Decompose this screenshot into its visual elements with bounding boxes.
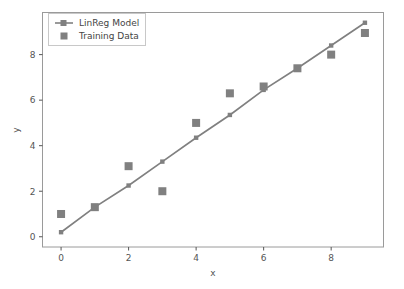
y-tick-label: 2: [30, 187, 36, 197]
y-tick-label: 6: [30, 95, 36, 105]
chart-figure: 02468 02468 x y LinReg Model Training Da…: [0, 0, 404, 289]
line-data-point: [160, 159, 164, 163]
line-data-point: [363, 21, 367, 25]
y-tick-label: 0: [30, 232, 36, 242]
line-data-point: [228, 113, 232, 117]
training-data-point: [226, 89, 234, 97]
line-data-point: [126, 183, 130, 187]
training-data-point: [192, 119, 200, 127]
line-data-point: [194, 136, 198, 140]
legend-label-linreg-model: LinReg Model: [79, 18, 139, 28]
x-tick-label: 8: [328, 253, 334, 263]
x-tick-label: 2: [126, 253, 132, 263]
legend-square-swatch-icon: [61, 33, 68, 40]
training-data-point: [91, 203, 99, 211]
line-data-point: [329, 43, 333, 47]
y-axis-label: y: [11, 127, 21, 133]
x-tick-label: 0: [58, 253, 64, 263]
line-data-point: [59, 230, 63, 234]
x-tick-label: 4: [193, 253, 199, 263]
training-data-point: [327, 51, 335, 59]
training-data-point: [260, 82, 268, 90]
training-data-point: [57, 210, 65, 218]
training-data-point: [158, 187, 166, 195]
chart-legend[interactable]: LinReg Model Training Data: [49, 14, 146, 46]
x-axis-label: x: [210, 268, 216, 278]
training-data-point: [361, 29, 369, 37]
training-data-point: [125, 162, 133, 170]
legend-label-training-data: Training Data: [78, 31, 139, 41]
scatter-plot: 02468 02468 x y LinReg Model Training Da…: [0, 0, 404, 289]
legend-square-marker-icon: [61, 20, 67, 26]
y-tick-label: 8: [30, 50, 36, 60]
y-tick-label: 4: [30, 141, 36, 151]
x-tick-label: 6: [261, 253, 267, 263]
training-data-point: [293, 64, 301, 72]
